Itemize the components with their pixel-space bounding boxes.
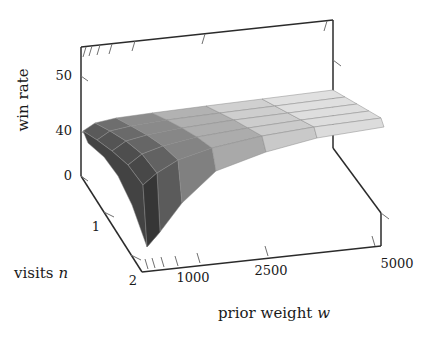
x-axis-title-symbol: w <box>317 304 330 322</box>
x-axis-title: prior weightw <box>218 304 330 322</box>
back-top-tick-1 <box>83 47 86 57</box>
x-tick-a <box>145 259 148 269</box>
right-tick-lower <box>381 213 389 219</box>
box-edge-back-top <box>81 20 333 47</box>
back-top-tick-6 <box>202 34 205 44</box>
tick-labels: 50 40 0 1 2 1000 2500 5000 <box>55 68 413 288</box>
x-ticklabel-2500: 2500 <box>254 263 287 278</box>
y-axis-title-symbol: n <box>59 264 69 282</box>
x-ticklabel-5000: 5000 <box>380 256 413 271</box>
x-tick-2500 <box>265 246 268 256</box>
x-tick-c <box>161 257 164 267</box>
back-top-tick-5 <box>132 41 135 51</box>
surface-facet <box>157 160 182 232</box>
back-top-tick-2 <box>89 46 92 56</box>
x-tick-b <box>152 258 155 268</box>
back-top-tick-7 <box>324 21 327 31</box>
y-axis-title-text: visits <box>13 264 54 282</box>
y-axis-title: visitsn <box>13 264 68 282</box>
back-top-tick-4 <box>109 44 112 54</box>
back-top-ticks <box>83 21 327 57</box>
y-axis-ticks <box>104 212 141 260</box>
x-axis-title-text: prior weight <box>218 304 312 322</box>
back-top-tick-3 <box>97 45 100 55</box>
x-tick-1000 <box>175 256 178 266</box>
box-edge-right-diagonal <box>333 148 381 213</box>
y-ticklabel-1: 1 <box>92 219 100 234</box>
z-ticklabel-40: 40 <box>55 123 72 138</box>
surface-mesh <box>83 90 384 247</box>
right-axis-ticks <box>333 60 389 219</box>
x-ticklabel-1000: 1000 <box>176 270 209 285</box>
z-axis-title: win rate <box>14 68 32 131</box>
x-tick-5000 <box>372 236 375 246</box>
z-ticklabel-0: 0 <box>64 168 72 183</box>
x-tick-d <box>197 253 200 263</box>
y-ticklabel-2: 2 <box>129 273 137 288</box>
z-ticklabel-50: 50 <box>55 68 72 83</box>
right-tick-upper <box>333 60 341 66</box>
surface-plot-figure: 50 40 0 1 2 1000 2500 5000 win rate visi… <box>0 0 426 338</box>
z-tick-50 <box>81 76 88 81</box>
